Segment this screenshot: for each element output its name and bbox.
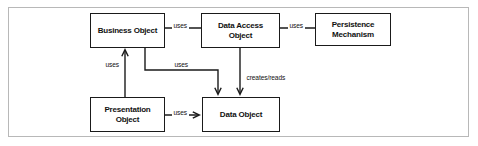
edge-label-presentation-to-data-object: uses (172, 110, 189, 117)
node-data-object[interactable]: Data Object (202, 97, 280, 132)
edge-label-business-to-data-object: uses (173, 62, 190, 69)
node-data-access-object[interactable]: Data Access Object (201, 13, 280, 48)
edge-label-presentation-to-business: uses (104, 62, 121, 69)
node-business-object[interactable]: Business Object (90, 13, 165, 48)
dao-pattern-figure: Business Object Data Access Object Persi… (0, 0, 478, 146)
edge-label-business-to-dao: uses (172, 23, 189, 30)
edge-label-dao-to-data-object: creates/reads (245, 75, 287, 82)
node-persistence-mechanism-label: Persistence Mechanism (332, 20, 375, 40)
node-persistence-mechanism[interactable]: Persistence Mechanism (315, 13, 391, 46)
edge-label-dao-to-persistence: uses (288, 23, 305, 30)
node-data-object-label: Data Object (220, 110, 262, 120)
node-presentation-object[interactable]: Presentation Object (90, 97, 165, 132)
node-presentation-object-label: Presentation Object (104, 105, 150, 125)
connector-business-to-data-object (145, 48, 218, 94)
node-data-access-object-label: Data Access Object (218, 21, 263, 41)
node-business-object-label: Business Object (98, 26, 158, 36)
